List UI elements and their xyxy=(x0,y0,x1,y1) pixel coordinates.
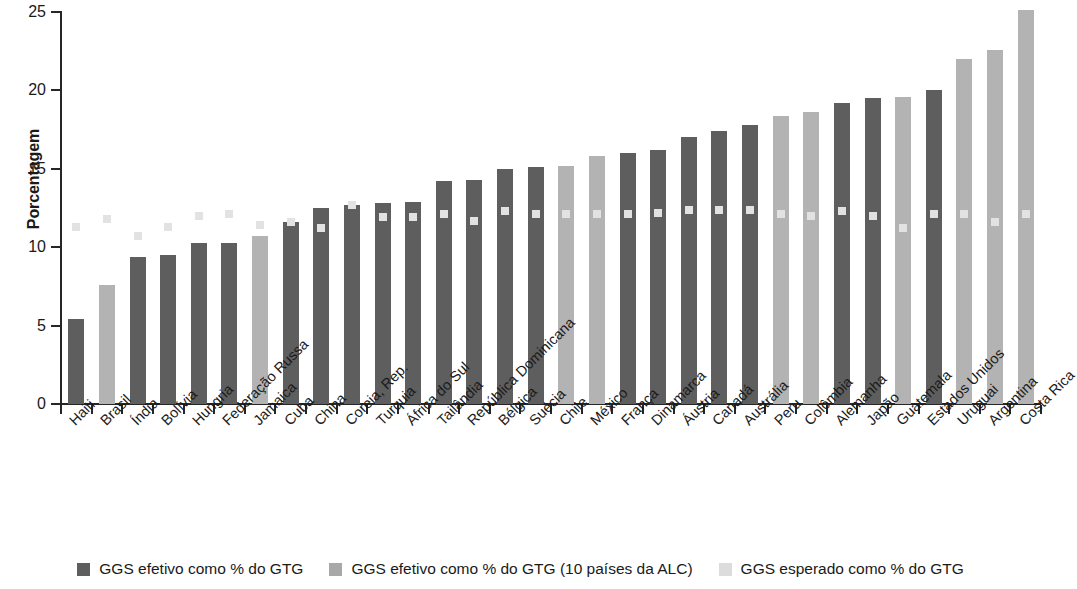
x-tick-0 xyxy=(60,405,62,414)
bar-brasil xyxy=(99,285,115,404)
expected-marker-peru xyxy=(777,210,785,218)
x-tick-30 xyxy=(979,405,981,414)
expected-marker-austr-lia xyxy=(746,206,754,214)
expected-marker-estados-unidos xyxy=(930,210,938,218)
expected-marker-coreia-rep xyxy=(348,201,356,209)
expected-marker-canad xyxy=(715,206,723,214)
bar-frica-do-sul xyxy=(405,202,421,404)
y-tick-20 xyxy=(51,89,61,91)
x-tick-1 xyxy=(91,405,93,414)
x-tick-32 xyxy=(1040,405,1042,414)
bar-rep-blica-dominicana xyxy=(466,180,482,404)
expected-marker-jap-o xyxy=(869,212,877,220)
x-tick-2 xyxy=(121,405,123,414)
bar-fran-a xyxy=(620,153,636,404)
bar-ndia xyxy=(130,257,146,404)
x-tick-21 xyxy=(703,405,705,414)
expected-marker-ndia xyxy=(134,232,142,240)
y-tick-label-15: 15 xyxy=(2,160,46,178)
expected-marker-bol-via xyxy=(164,223,172,231)
bar-chile xyxy=(558,166,574,404)
x-tick-8 xyxy=(305,405,307,414)
bar-su-cia xyxy=(528,167,544,404)
bar-col-mbia xyxy=(803,112,819,404)
bar-coreia-rep xyxy=(344,205,360,404)
legend-alc-label: GGS efetivo como % do GTG (10 países da … xyxy=(351,560,692,578)
expected-marker-ustria xyxy=(685,206,693,214)
expected-marker-uruguai xyxy=(960,210,968,218)
x-tick-28 xyxy=(918,405,920,414)
x-tick-14 xyxy=(489,405,491,414)
y-tick-10 xyxy=(51,246,61,248)
x-tick-11 xyxy=(397,405,399,414)
bar-m-xico xyxy=(589,156,605,404)
y-tick-label-5: 5 xyxy=(2,317,46,335)
x-tick-4 xyxy=(183,405,185,414)
expected-marker-guatemala xyxy=(899,224,907,232)
expected-marker-su-cia xyxy=(532,210,540,218)
bar-uruguai xyxy=(956,59,972,404)
bar-b-lgica xyxy=(497,169,513,404)
expected-marker-col-mbia xyxy=(807,212,815,220)
expected-marker-tail-ndia xyxy=(440,210,448,218)
bar-cuba xyxy=(283,222,299,404)
expected-marker-costa-rica xyxy=(1022,210,1030,218)
chart-legend: GGS efetivo como % do GTGGGS efetivo com… xyxy=(0,560,1041,578)
bar-peru xyxy=(773,116,789,405)
expected-marker-m-xico xyxy=(593,210,601,218)
y-tick-label-20: 20 xyxy=(2,81,46,99)
x-tick-18 xyxy=(611,405,613,414)
x-tick-7 xyxy=(274,405,276,414)
bar-dinamarca xyxy=(650,150,666,404)
expected-marker-alemanha xyxy=(838,207,846,215)
expected-marker-argentina xyxy=(991,218,999,226)
x-tick-24 xyxy=(795,405,797,414)
bar-jamaica xyxy=(252,236,268,404)
x-tick-12 xyxy=(428,405,430,414)
bar-austr-lia xyxy=(742,125,758,404)
expected-marker-hungria xyxy=(195,212,203,220)
x-tick-17 xyxy=(581,405,583,414)
y-tick-25 xyxy=(51,11,61,13)
legend-alc[interactable]: GGS efetivo como % do GTG (10 países da … xyxy=(329,560,692,578)
bar-ustria xyxy=(681,137,697,404)
y-tick-label-25: 25 xyxy=(2,3,46,21)
expected-marker-jamaica xyxy=(256,221,264,229)
expected-marker-chile xyxy=(562,210,570,218)
bar-estados-unidos xyxy=(926,90,942,404)
bar-federa-o-russa xyxy=(221,243,237,405)
x-tick-9 xyxy=(336,405,338,414)
x-tick-25 xyxy=(826,405,828,414)
x-tick-19 xyxy=(642,405,644,414)
expected-marker-haiti xyxy=(72,223,80,231)
bar-haiti xyxy=(68,319,84,404)
expected-marker-fran-a xyxy=(624,210,632,218)
y-tick-5 xyxy=(51,325,61,327)
bar-hungria xyxy=(191,243,207,405)
x-tick-26 xyxy=(856,405,858,414)
bar-jap-o xyxy=(865,98,881,404)
legend-expected[interactable]: GGS esperado como % do GTG xyxy=(719,560,964,578)
legend-effective-swatch-icon xyxy=(77,563,90,576)
x-tick-15 xyxy=(519,405,521,414)
expected-marker-cuba xyxy=(287,218,295,226)
y-tick-label-0: 0 xyxy=(2,395,46,413)
legend-effective[interactable]: GGS efetivo como % do GTG xyxy=(77,560,303,578)
bar-china xyxy=(313,208,329,404)
bar-argentina xyxy=(987,50,1003,404)
bar-guatemala xyxy=(895,97,911,404)
x-tick-10 xyxy=(366,405,368,414)
expected-marker-brasil xyxy=(103,215,111,223)
x-tick-27 xyxy=(887,405,889,414)
bar-costa-rica xyxy=(1018,10,1034,404)
x-tick-3 xyxy=(152,405,154,414)
legend-expected-label: GGS esperado como % do GTG xyxy=(741,560,964,578)
expected-marker-dinamarca xyxy=(654,209,662,217)
x-tick-23 xyxy=(764,405,766,414)
legend-alc-swatch-icon xyxy=(329,563,342,576)
x-tick-22 xyxy=(734,405,736,414)
expected-marker-china xyxy=(317,224,325,232)
bar-turquia xyxy=(375,203,391,404)
x-tick-13 xyxy=(458,405,460,414)
